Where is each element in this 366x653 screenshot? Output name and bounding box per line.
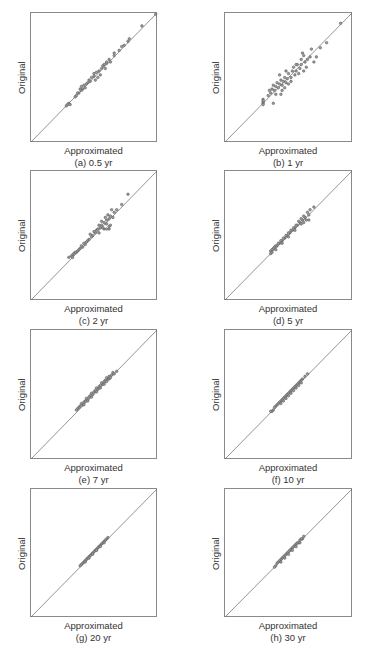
data-point — [105, 380, 108, 383]
data-point — [98, 70, 101, 73]
data-point — [302, 54, 305, 57]
data-point — [74, 96, 77, 99]
data-point — [287, 72, 290, 75]
data-point — [287, 553, 290, 556]
data-point — [115, 370, 118, 373]
data-point — [104, 216, 107, 219]
data-point — [276, 562, 279, 565]
x-axis-label: Approximated — [224, 462, 352, 473]
data-point — [290, 80, 293, 83]
data-point — [287, 395, 290, 398]
y-axis-label: Original — [16, 61, 27, 94]
data-point — [304, 61, 307, 64]
panel-caption: (e) 7 yr — [30, 474, 157, 485]
data-point — [299, 542, 302, 545]
x-axis-label: Approximated — [30, 462, 157, 473]
y-axis-label: Original — [16, 378, 27, 411]
data-point — [120, 203, 123, 206]
data-point — [269, 92, 272, 95]
data-point — [300, 382, 303, 385]
data-point — [83, 404, 86, 407]
data-point — [304, 375, 307, 378]
data-point — [325, 41, 328, 44]
data-point — [273, 566, 276, 569]
data-point — [100, 382, 103, 385]
data-point — [302, 535, 305, 538]
data-point — [295, 63, 298, 66]
data-point — [65, 105, 68, 108]
data-point — [99, 74, 102, 77]
data-point — [277, 242, 280, 245]
plot-area — [224, 488, 352, 617]
data-point — [105, 61, 108, 64]
data-point — [100, 220, 103, 223]
data-point — [91, 553, 94, 556]
data-point — [100, 224, 103, 227]
panel-caption: (h) 30 yr — [224, 632, 352, 643]
data-point — [297, 220, 300, 223]
data-point — [285, 70, 288, 73]
data-point — [90, 76, 93, 79]
data-point — [278, 74, 281, 77]
scatter-plot — [31, 171, 158, 301]
data-point — [309, 208, 312, 211]
data-point — [84, 87, 87, 90]
data-point — [262, 99, 265, 102]
data-point — [100, 67, 103, 70]
data-point — [80, 85, 83, 88]
data-point — [262, 103, 265, 106]
data-point — [127, 40, 130, 43]
data-point — [93, 75, 96, 78]
data-point — [283, 76, 286, 79]
data-point — [141, 25, 144, 28]
data-point — [280, 93, 283, 96]
data-point — [273, 406, 276, 409]
data-point — [79, 565, 82, 568]
data-point — [90, 396, 93, 399]
data-point — [295, 387, 298, 390]
data-point — [108, 58, 111, 61]
data-point — [105, 219, 108, 222]
data-point — [285, 397, 288, 400]
data-point — [98, 232, 101, 235]
data-point — [93, 391, 96, 394]
data-point — [86, 400, 89, 403]
data-point — [282, 400, 285, 403]
data-point — [300, 58, 303, 61]
data-point — [295, 224, 298, 227]
data-point — [276, 81, 279, 84]
data-point — [294, 74, 297, 77]
data-point — [105, 223, 108, 226]
y-axis-label: Original — [16, 219, 27, 252]
data-point — [313, 206, 316, 209]
scatter-plot — [225, 330, 353, 460]
data-point — [127, 193, 130, 196]
data-point — [109, 61, 112, 64]
data-point — [283, 87, 286, 90]
data-point — [120, 45, 123, 48]
data-point — [278, 83, 281, 86]
data-point — [88, 79, 91, 82]
plot-area — [30, 170, 157, 300]
data-point — [272, 102, 275, 105]
data-point — [285, 81, 288, 84]
data-point — [99, 387, 102, 390]
data-point — [105, 376, 108, 379]
scatter-plot — [225, 489, 353, 618]
panel-caption: (b) 1 yr — [224, 157, 352, 168]
data-point — [83, 84, 86, 87]
data-point — [80, 402, 83, 405]
data-point — [128, 38, 131, 41]
data-point — [97, 76, 100, 79]
data-point — [269, 410, 272, 413]
data-point — [76, 92, 79, 95]
data-point — [305, 66, 308, 69]
data-point — [99, 545, 102, 548]
panel-caption: (a) 0.5 yr — [30, 157, 157, 168]
data-point — [79, 88, 82, 91]
x-axis-label: Approximated — [30, 145, 157, 156]
data-point — [113, 54, 116, 57]
data-point — [280, 402, 283, 405]
data-point — [103, 221, 106, 224]
data-point — [99, 227, 102, 230]
